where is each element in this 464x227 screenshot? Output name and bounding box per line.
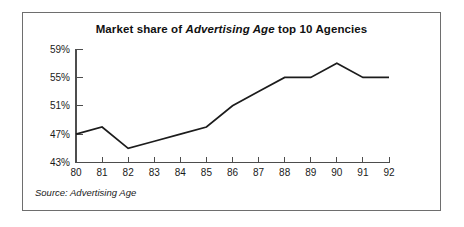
y-tick-label: 55% xyxy=(50,72,70,83)
x-tick-label: 87 xyxy=(253,167,265,178)
x-tick-label: 88 xyxy=(279,167,291,178)
x-tick-label: 83 xyxy=(149,167,161,178)
x-tick-label: 89 xyxy=(305,167,317,178)
y-tick-label: 43% xyxy=(50,157,70,168)
y-tick-label: 59% xyxy=(50,44,70,55)
x-tick-label: 90 xyxy=(331,167,343,178)
y-axis: 43%47%51%55%59% xyxy=(50,44,83,169)
x-tick-label: 82 xyxy=(123,167,135,178)
source-note: Source: Advertising Age xyxy=(35,187,136,198)
y-tick-label: 47% xyxy=(50,129,70,140)
data-series-group xyxy=(76,63,389,148)
x-axis: 80818283848586878889909192 xyxy=(70,157,395,179)
x-tick-label: 80 xyxy=(70,167,82,178)
x-tick-label: 86 xyxy=(227,167,239,178)
data-line-0 xyxy=(76,63,389,148)
x-tick-label: 91 xyxy=(357,167,369,178)
x-tick-label: 84 xyxy=(175,167,187,178)
x-tick-label: 85 xyxy=(201,167,213,178)
chart-frame: Market share of Advertising Age top 10 A… xyxy=(22,12,441,211)
x-tick-label: 81 xyxy=(97,167,109,178)
line-chart-plot: 43%47%51%55%59% 808182838485868788899091… xyxy=(23,13,442,212)
y-tick-label: 51% xyxy=(50,100,70,111)
x-tick-label: 92 xyxy=(383,167,395,178)
